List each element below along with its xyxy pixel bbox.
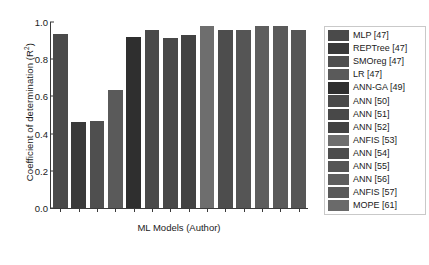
legend-item: SMOreg [47] xyxy=(328,55,423,68)
legend-item: ANFIS [57] xyxy=(328,186,423,199)
legend-color-swatch xyxy=(328,69,349,80)
y-axis-tick: 0.0 xyxy=(35,203,50,214)
legend-color-swatch xyxy=(328,30,349,41)
legend-color-swatch xyxy=(328,187,349,198)
legend-color-swatch xyxy=(328,174,349,185)
legend-item-label: ANN [51] xyxy=(353,110,390,119)
y-axis-tick-label: 0.8 xyxy=(35,54,50,65)
bar xyxy=(108,90,123,208)
y-axis-tick: 1.0 xyxy=(35,17,50,28)
legend-color-swatch xyxy=(328,122,349,133)
legend-item: ANN [52] xyxy=(328,121,423,134)
x-axis-line xyxy=(50,208,308,209)
x-axis-tick-mark xyxy=(152,208,153,212)
legend-item-label: ANFIS [57] xyxy=(353,188,397,197)
legend-item-label: SMOreg [47] xyxy=(353,57,404,66)
bar xyxy=(218,30,233,208)
legend-item-label: ANN [52] xyxy=(353,123,390,132)
x-axis-tick-mark xyxy=(280,208,281,212)
y-axis-tick: 0.8 xyxy=(35,54,50,65)
legend-item: ANN [50] xyxy=(328,94,423,107)
legend-color-swatch xyxy=(328,43,349,54)
legend-item: MOPE [61] xyxy=(328,199,423,212)
legend-item-label: ANN [54] xyxy=(353,149,390,158)
y-axis-tick: 0.6 xyxy=(35,91,50,102)
legend-item: ANN [54] xyxy=(328,147,423,160)
legend-item: ANN [51] xyxy=(328,108,423,121)
legend-color-swatch xyxy=(328,56,349,67)
x-axis-tick-mark xyxy=(262,208,263,212)
bar xyxy=(53,34,68,208)
legend-item-label: LR [47] xyxy=(353,70,382,79)
legend-color-swatch xyxy=(328,82,349,93)
y-axis-tick-label: 0.4 xyxy=(35,128,50,139)
y-axis-title-tail: ) xyxy=(24,43,35,46)
legend-item: LR [47] xyxy=(328,68,423,81)
legend-color-swatch xyxy=(328,135,349,146)
y-axis-tick-label: 0.0 xyxy=(35,203,50,214)
x-axis-tick-mark xyxy=(170,208,171,212)
bar-series xyxy=(51,22,308,208)
bar xyxy=(126,37,141,208)
x-axis-tick-mark xyxy=(79,208,80,212)
y-axis-title-main: Coefficient of determination (R xyxy=(24,50,35,181)
legend-item-label: MLP [47] xyxy=(353,31,389,40)
bar xyxy=(200,26,215,208)
x-axis-tick-mark xyxy=(134,208,135,212)
x-axis-tick-mark xyxy=(115,208,116,212)
legend-item: MLP [47] xyxy=(328,29,423,42)
legend-item-label: REPTree [47] xyxy=(353,44,407,53)
bar xyxy=(273,26,288,208)
bar xyxy=(163,38,178,208)
x-axis-tick-mark xyxy=(225,208,226,212)
legend-item: ANFIS [53] xyxy=(328,134,423,147)
plot-area: 0.00.20.40.60.81.0 xyxy=(50,22,308,208)
legend-item: ANN-GA [49] xyxy=(328,81,423,94)
x-axis-tick-mark xyxy=(97,208,98,212)
legend-color-swatch xyxy=(328,200,349,211)
x-axis-tick-mark xyxy=(244,208,245,212)
legend-color-swatch xyxy=(328,148,349,159)
legend-item: ANN [55] xyxy=(328,160,423,173)
y-axis-tick-label: 1.0 xyxy=(35,17,50,28)
x-axis-tick-mark xyxy=(207,208,208,212)
x-axis-tick-mark xyxy=(299,208,300,212)
bar xyxy=(90,121,105,208)
y-axis-tick: 0.4 xyxy=(35,128,50,139)
y-axis-tick: 0.2 xyxy=(35,165,50,176)
x-axis-tick-mark xyxy=(189,208,190,212)
legend-item-label: ANN [56] xyxy=(353,175,390,184)
legend-color-swatch xyxy=(328,161,349,172)
legend-item-label: ANFIS [53] xyxy=(353,136,397,145)
legend-item-label: ANN [55] xyxy=(353,162,390,171)
legend-color-swatch xyxy=(328,109,349,120)
bar xyxy=(255,26,270,208)
legend-item-label: ANN-GA [49] xyxy=(353,83,405,92)
chart-legend: MLP [47]REPTree [47]SMOreg [47]LR [47]AN… xyxy=(324,26,426,215)
y-axis-title-superscript: 2 xyxy=(23,46,30,50)
legend-item-label: ANN [50] xyxy=(353,97,390,106)
bar xyxy=(291,30,306,208)
bar xyxy=(71,122,86,208)
bar-chart-figure: Coefficient of determination (R2) 0.00.2… xyxy=(0,0,429,265)
legend-item-label: MOPE [61] xyxy=(353,201,397,210)
bar xyxy=(181,35,196,208)
bar xyxy=(145,30,160,208)
y-axis-tick-label: 0.6 xyxy=(35,91,50,102)
y-axis-title: Coefficient of determination (R2) xyxy=(23,12,35,212)
x-axis-title: ML Models (Author) xyxy=(50,222,308,233)
legend-item: ANN [56] xyxy=(328,173,423,186)
legend-color-swatch xyxy=(328,95,349,106)
x-axis-tick-mark xyxy=(60,208,61,212)
bar xyxy=(236,30,251,208)
legend-item: REPTree [47] xyxy=(328,42,423,55)
y-axis-tick-label: 0.2 xyxy=(35,165,50,176)
